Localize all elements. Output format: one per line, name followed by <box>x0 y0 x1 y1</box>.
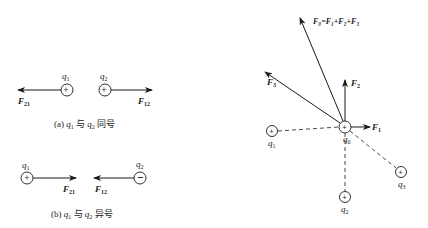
q3-label: q3 <box>398 180 406 190</box>
force-f3-arrow <box>265 72 340 123</box>
q2-sign: + <box>342 194 347 200</box>
q1-label: q1 <box>62 72 70 82</box>
panel-c-superposition <box>265 18 407 203</box>
f1-label: F1 <box>372 123 381 133</box>
q2-label: q2 <box>341 205 349 215</box>
force-f0-resultant-arrow <box>300 18 343 121</box>
f0-resultant-equation: F₀=F₁+F₂+F₃ <box>313 18 359 26</box>
q2-sign: + <box>101 87 107 94</box>
q2-label: q2 <box>100 72 108 82</box>
f2-label: F2 <box>351 79 360 89</box>
q1-label: q1 <box>22 161 30 171</box>
caption-a: (a) q1 与 q2 同号 <box>54 117 115 130</box>
dashed-line-q0-q3 <box>350 131 396 168</box>
q2-label: q2 <box>136 160 144 170</box>
q0-sign: + <box>342 124 347 130</box>
q1-sign: + <box>24 175 30 182</box>
q1-label: q1 <box>268 139 276 149</box>
q3-sign: + <box>398 169 403 175</box>
q1-sign: + <box>269 128 274 134</box>
dashed-line-q1-q0 <box>278 127 339 131</box>
panel-a-same-sign <box>18 84 152 96</box>
q2-sign: − <box>137 174 144 182</box>
f21-label: F21 <box>18 97 30 107</box>
q1-sign: + <box>63 87 69 94</box>
f12-label: F12 <box>95 185 107 195</box>
caption-b: (b) q1 与 q2 异号 <box>51 207 113 220</box>
f12-label: F12 <box>138 97 150 107</box>
q0-label: q0 <box>343 135 351 145</box>
panel-b-opposite-sign <box>21 172 146 184</box>
f3-label: F3 <box>267 78 276 88</box>
f21-label: F21 <box>63 185 75 195</box>
